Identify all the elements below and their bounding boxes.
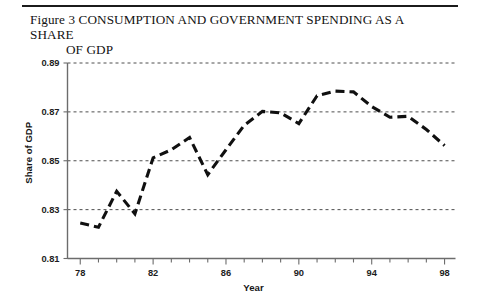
- y-tick-label: 0.83: [41, 205, 59, 215]
- x-tick-label: 86: [221, 268, 231, 278]
- axis-ticks: [64, 63, 445, 265]
- y-tick-label: 0.89: [41, 58, 59, 68]
- y-tick-label: 0.85: [41, 156, 59, 166]
- y-tick-label: 0.87: [41, 107, 59, 117]
- x-tick-label: 98: [439, 268, 449, 278]
- x-tick-label: 78: [75, 268, 85, 278]
- grid-lines: [68, 63, 456, 259]
- y-axis-title: Share of GDP: [23, 121, 34, 183]
- x-tick-label: 82: [148, 268, 158, 278]
- x-axis-title: Year: [243, 282, 264, 293]
- y-tick-label: 0.81: [41, 254, 59, 264]
- x-tick-label: 90: [294, 268, 304, 278]
- x-axis-tick-labels: 788286909498: [75, 268, 450, 278]
- chart-container: 0.810.830.850.870.89 788286909498 Share …: [0, 0, 480, 306]
- y-axis-tick-labels: 0.810.830.850.870.89: [41, 58, 59, 264]
- line-chart: 0.810.830.850.870.89 788286909498 Share …: [0, 0, 480, 306]
- x-tick-label: 94: [367, 268, 378, 278]
